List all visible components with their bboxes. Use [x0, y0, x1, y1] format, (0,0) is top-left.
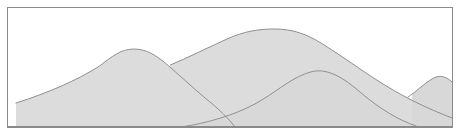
figure-frame — [7, 7, 453, 128]
screenshot-canvas — [0, 0, 461, 136]
hill-landscape-illustration — [8, 8, 452, 127]
